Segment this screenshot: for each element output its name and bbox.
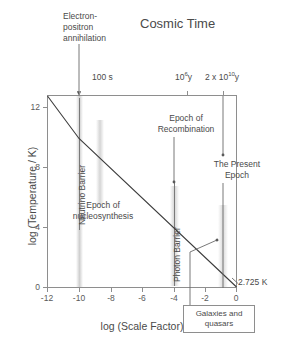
y-axis-title: log (Temperature / K) [26,101,38,291]
top-tick-2e10-label: 2 x 1010y [205,72,239,82]
top-tick-2e10-unit: y [235,72,239,82]
x-tick-label: 0 [223,293,249,303]
epoch-of-recombination-label: Epoch ofRecombination [140,113,232,135]
top-tick-10e6-unit: y [188,72,192,82]
cosmic-time-chart: Cosmic Time Electron-positronannihilatio… [0,0,291,361]
epoch-of-nucleosynthesis-label: Epoch ofnucleosynthesis [60,200,146,222]
present-temperature-label: 2.725 K [238,277,267,287]
top-tick-100s-label: 100 s [92,72,113,82]
top-tick-2e10-exponent: 10 [228,71,235,77]
x-tick-mark [174,288,175,292]
x-tick-mark [142,288,143,292]
x-tick-mark [47,288,48,292]
top-tick-2e10-base: 2 x 10 [205,72,228,82]
x-tick-mark [236,288,237,292]
electron-positron-annihilation-label: Electron-positronannihilation [63,11,125,44]
x-tick-mark [79,288,80,292]
x-tick-label: -2 [192,293,218,303]
x-tick-label: -10 [66,293,92,303]
chart-title: Cosmic Time [140,16,215,31]
photon-barrier-label: Photon Barrier [172,227,182,282]
top-tick-10e6-mark [187,91,188,95]
top-tick-10e6-label: 106y [175,72,192,82]
x-axis-title: log (Scale Factor) [47,320,237,332]
top-tick-2e10-mark [223,91,224,95]
x-tick-label: -4 [161,293,187,303]
electron-positron-band [96,120,104,205]
y-tick-mark [43,167,47,168]
y-tick-mark [43,287,47,288]
x-tick-label: -6 [129,293,155,303]
the-present-epoch-label: The PresentEpoch [196,159,278,181]
x-tick-label: -8 [98,293,124,303]
x-tick-label: -12 [34,293,60,303]
x-tick-mark [111,288,112,292]
present-epoch-band [218,205,228,287]
x-tick-mark [205,288,206,292]
top-tick-100s-mark [79,91,80,95]
y-tick-mark [43,227,47,228]
y-tick-mark [43,107,47,108]
